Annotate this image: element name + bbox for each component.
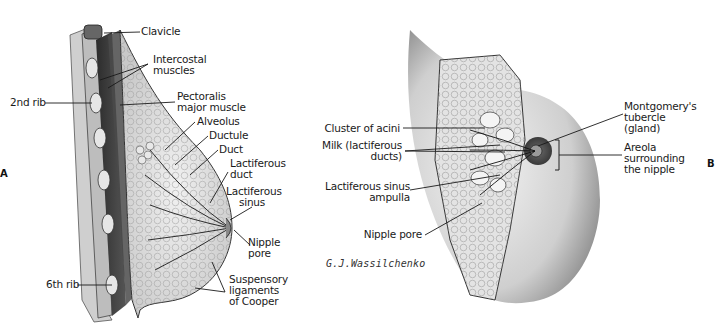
breast-anatomy-figure: Clavicle Intercostal muscles 2nd rib Pec…: [0, 0, 722, 333]
label-lactiferous-duct: Lactiferous duct: [230, 158, 286, 180]
label-lactiferous-sinus-ampulla: Lactiferous sinus ampulla: [290, 181, 410, 203]
label-nipple-pore: Nipple pore: [248, 237, 280, 259]
label-montgomerys-tubercle: Montgomery's tubercle (gland): [624, 101, 697, 134]
label-intercostal-muscles: Intercostal muscles: [153, 54, 206, 76]
label-duct: Duct: [219, 144, 243, 155]
label-cluster-of-acini: Cluster of acini: [290, 123, 400, 134]
panel-label-b: B: [707, 158, 715, 169]
label-alveolus: Alveolus: [197, 116, 240, 127]
label-2nd-rib: 2nd rib: [10, 97, 46, 108]
label-milk-lactiferous-ducts: Milk (lactiferous ducts): [290, 140, 402, 162]
anatomy-illustration: [0, 0, 722, 333]
label-6th-rib: 6th rib: [46, 279, 79, 290]
label-lactiferous-sinus: Lactiferous sinus: [226, 186, 278, 208]
label-ductule: Ductule: [209, 130, 248, 141]
label-pectoralis-major: Pectoralis major muscle: [177, 91, 246, 113]
label-clavicle: Clavicle: [141, 26, 180, 37]
sagittal-breast-section: [70, 25, 232, 322]
label-areola: Areola surrounding the nipple: [624, 142, 685, 175]
artist-signature: G.J.Wassilchenko: [326, 258, 426, 269]
label-nipple-pore-b: Nipple pore: [320, 229, 422, 240]
label-suspensory-ligaments: Suspensory ligaments of Cooper: [229, 274, 288, 307]
panel-label-a: A: [0, 168, 8, 179]
frontal-breast-section: [408, 30, 600, 303]
